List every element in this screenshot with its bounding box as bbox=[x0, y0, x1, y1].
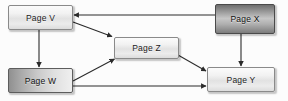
node-page-y[interactable]: Page Y bbox=[207, 67, 275, 92]
node-page-v[interactable]: Page V bbox=[8, 5, 73, 30]
page-link-diagram: Page V Page X Page Z Page W Page Y bbox=[0, 0, 288, 101]
edge-v-to-z bbox=[73, 22, 112, 37]
node-page-w-label: Page W bbox=[25, 76, 56, 86]
node-page-x[interactable]: Page X bbox=[215, 4, 275, 34]
node-page-y-label: Page Y bbox=[227, 75, 256, 85]
node-page-x-label: Page X bbox=[230, 14, 259, 24]
node-page-w[interactable]: Page W bbox=[8, 68, 73, 93]
edge-z-to-y bbox=[178, 55, 206, 71]
node-page-v-label: Page V bbox=[26, 13, 55, 23]
node-page-z[interactable]: Page Z bbox=[114, 37, 179, 59]
node-page-z-label: Page Z bbox=[132, 43, 161, 53]
edge-w-to-z bbox=[73, 59, 115, 81]
